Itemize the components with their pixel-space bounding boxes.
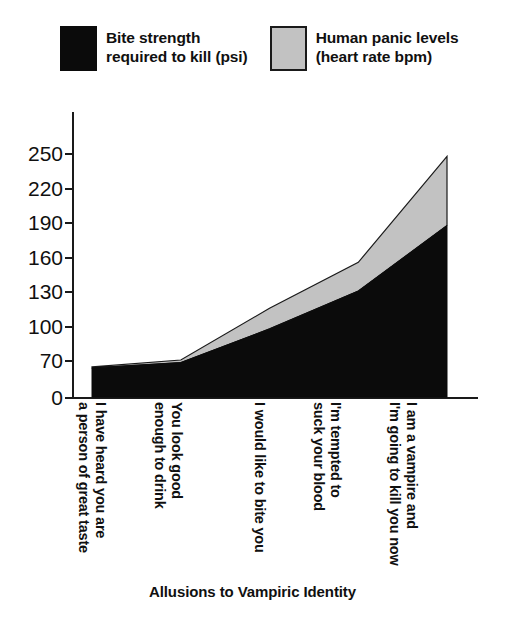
y-tick-label-100: 100 — [28, 315, 63, 336]
y-tick-label-190: 190 — [28, 212, 63, 233]
x-label-2: I would like to bite you — [252, 402, 269, 567]
chart-legend: Bite strength required to kill (psi) Hum… — [60, 26, 459, 71]
x-label-3: I'm tempted to suck your blood — [311, 402, 344, 567]
y-tick-label-220: 220 — [28, 177, 63, 198]
y-tick-label-0: 0 — [51, 387, 63, 408]
y-tick-label-250: 250 — [28, 143, 63, 164]
stacked-area-chart: Bite strength required to kill (psi) Hum… — [0, 0, 505, 620]
x-axis-title: Allusions to Vampiric Identity — [0, 583, 505, 600]
x-label-0: I have heard you are a person of great t… — [76, 402, 109, 567]
x-category-labels: I have heard you are a person of great t… — [72, 402, 478, 567]
y-tick-label-70: 70 — [40, 350, 63, 371]
legend-label-panic-levels: Human panic levels (heart rate bpm) — [316, 26, 459, 66]
legend-item-panic-levels: Human panic levels (heart rate bpm) — [270, 26, 459, 71]
legend-label-bite-strength: Bite strength required to kill (psi) — [106, 26, 248, 66]
legend-item-bite-strength: Bite strength required to kill (psi) — [60, 26, 248, 71]
plot-area: 0 70 100 130 160 190 220 250 — [72, 112, 448, 399]
x-label-4: I am a vampire and I'm going to kill you… — [387, 402, 420, 567]
legend-swatch-gray-icon — [270, 26, 307, 71]
y-tick-label-160: 160 — [28, 246, 63, 267]
y-tick-label-130: 130 — [28, 281, 63, 302]
x-label-1: You look good enough to drink — [152, 402, 185, 567]
series-areas — [74, 112, 448, 399]
legend-swatch-black-icon — [60, 26, 97, 71]
